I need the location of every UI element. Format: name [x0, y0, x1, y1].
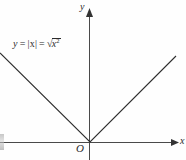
x-axis-label: x: [180, 136, 184, 146]
plot-canvas: [0, 0, 186, 160]
equation-radical-term: √x2: [47, 38, 61, 49]
equation-y-term: y: [13, 38, 18, 49]
radical-argument-exponent: 2: [56, 37, 59, 44]
x-axis-arrow-icon: [171, 139, 179, 146]
radical-argument: x2: [52, 38, 61, 49]
equation-equals-1: =: [18, 38, 28, 49]
y-axis-label: y: [80, 2, 84, 12]
absolute-value-graph-figure: y x O y=|x|=√x2: [0, 0, 186, 160]
absolute-value-curve: [0, 53, 176, 142]
equation-absolute-value-term: |x|: [27, 38, 37, 49]
y-axis-arrow-icon: [86, 8, 93, 17]
left-edge-clipped-artifact: [0, 134, 4, 150]
equation-annotation: y=|x|=√x2: [13, 38, 61, 49]
origin-label: O: [76, 143, 84, 154]
equation-equals-2: =: [37, 38, 47, 49]
